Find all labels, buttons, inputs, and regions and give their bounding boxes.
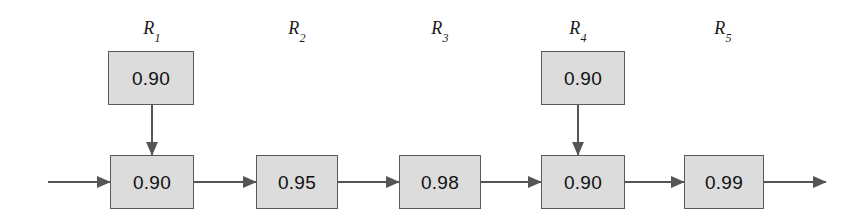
stage-label-base: R [714,18,725,38]
stage-label-r2: R2 [288,18,305,43]
block-reliability-value: 0.90 [132,69,170,88]
stage-label-r4: R4 [569,18,586,43]
stage-label-subscript: 5 [726,31,732,45]
block-reliability-value: 0.95 [278,173,316,192]
stage-label-subscript: 2 [300,31,306,45]
stage-label-subscript: 3 [443,31,449,45]
block-r3-main: 0.98 [399,155,481,209]
stage-label-base: R [143,18,154,38]
stage-label-subscript: 4 [581,31,587,45]
stage-label-r3: R3 [431,18,448,43]
block-reliability-value: 0.90 [564,173,602,192]
block-r1-main: 0.90 [110,155,194,209]
block-r2-main: 0.95 [256,155,338,209]
block-r5-main: 0.99 [684,155,764,209]
stage-label-base: R [288,18,299,38]
block-r4-redundant: 0.90 [541,51,625,105]
block-reliability-value: 0.90 [564,69,602,88]
stage-label-r5: R5 [714,18,731,43]
reliability-block-diagram: R1R2R3R4R5 0.900.900.950.980.900.900.99 [0,0,864,221]
stage-label-base: R [569,18,580,38]
stage-label-subscript: 1 [155,31,161,45]
block-reliability-value: 0.98 [421,173,459,192]
stage-label-r1: R1 [143,18,160,43]
block-reliability-value: 0.99 [705,173,743,192]
block-r1-redundant: 0.90 [108,51,194,105]
stage-label-base: R [431,18,442,38]
block-reliability-value: 0.90 [133,173,171,192]
block-r4-main: 0.90 [541,155,625,209]
